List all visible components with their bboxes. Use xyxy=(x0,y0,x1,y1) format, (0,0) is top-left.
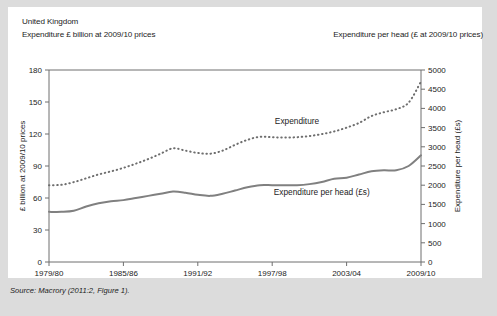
figure-container: United Kingdom Expenditure £ billion at … xyxy=(0,0,497,316)
chart-card xyxy=(8,7,482,278)
chart-title-country: United Kingdom xyxy=(22,17,78,26)
right-axis-caption: Expenditure per head (£ at 2009/10 price… xyxy=(333,30,483,39)
source-note: Source: Macrory (2011:2, Figure 1). xyxy=(10,286,130,295)
left-axis-caption: Expenditure £ billion at 2009/10 prices xyxy=(22,30,155,39)
